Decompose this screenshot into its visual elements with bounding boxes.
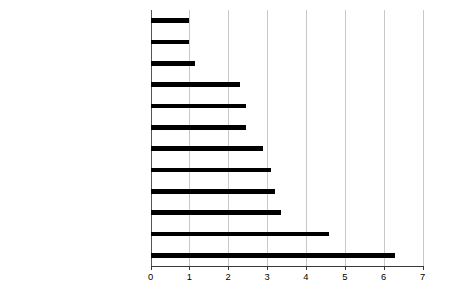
bar <box>151 18 190 23</box>
bar <box>151 61 196 66</box>
bar <box>151 253 396 258</box>
x-axis-tick <box>267 266 268 270</box>
bar <box>151 210 281 215</box>
bar-row: Clinical Medicine <box>151 202 423 223</box>
bar-row: Earth sciences <box>151 117 423 138</box>
bar <box>151 146 264 151</box>
bar-row: Neurosciences <box>151 223 423 244</box>
x-axis-tick <box>151 266 152 270</box>
bar-chart: Mathematics/Computer scienceSocial scien… <box>0 0 454 294</box>
x-axis-tick-label: 1 <box>187 272 192 281</box>
bar <box>151 232 330 237</box>
x-axis-tick-label: 6 <box>381 272 386 281</box>
bar <box>151 82 240 87</box>
x-axis-tick <box>423 266 424 270</box>
bar <box>151 168 271 173</box>
x-axis-tick-label: 4 <box>303 272 308 281</box>
gridline <box>423 10 424 266</box>
bar-row: Mathematics/Computer science <box>151 10 423 31</box>
bar-row: Social science <box>151 31 423 52</box>
bar-rows: Mathematics/Computer scienceSocial scien… <box>151 10 423 266</box>
x-axis-tick <box>306 266 307 270</box>
x-axis-tick <box>189 266 190 270</box>
bar-row: Biological sciences <box>151 74 423 95</box>
bar-row: Life sciences <box>151 245 423 266</box>
x-axis-tick-label: 0 <box>148 272 153 281</box>
x-axis-tick <box>384 266 385 270</box>
bar-row: Pharmacology <box>151 181 423 202</box>
x-axis-tick <box>228 266 229 270</box>
bar-row: Chemistry <box>151 138 423 159</box>
bar <box>151 104 246 109</box>
x-axis-line <box>151 266 424 267</box>
x-axis-tick-label: 2 <box>226 272 231 281</box>
bar-row: Physics <box>151 159 423 180</box>
x-axis-tick <box>345 266 346 270</box>
x-axis-tick-label: 3 <box>264 272 269 281</box>
plot-area: Mathematics/Computer scienceSocial scien… <box>151 10 423 266</box>
bar <box>151 125 246 130</box>
bar <box>151 40 190 45</box>
x-axis-tick-label: 5 <box>342 272 347 281</box>
bar-row: Environmental sciences <box>151 95 423 116</box>
bar-row: Materials science <box>151 53 423 74</box>
x-axis-tick-label: 7 <box>420 272 425 281</box>
bar <box>151 189 275 194</box>
